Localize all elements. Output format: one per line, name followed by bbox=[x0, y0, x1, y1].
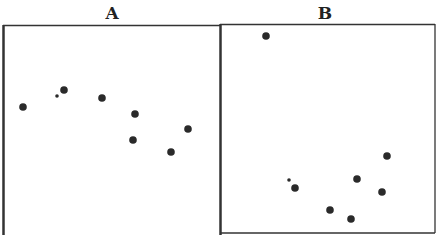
data-point bbox=[347, 215, 355, 223]
panel-b-points bbox=[262, 32, 391, 223]
data-point bbox=[326, 206, 334, 214]
data-point bbox=[131, 110, 139, 118]
panel-b-frame bbox=[220, 24, 435, 235]
data-point bbox=[353, 175, 361, 183]
data-point bbox=[262, 32, 270, 40]
data-point bbox=[129, 136, 137, 144]
data-point bbox=[378, 188, 386, 196]
data-point bbox=[19, 103, 27, 111]
data-point bbox=[60, 86, 68, 94]
data-point bbox=[184, 125, 192, 133]
data-point bbox=[167, 148, 175, 156]
scatter-plots bbox=[0, 0, 438, 235]
data-point bbox=[383, 152, 391, 160]
data-point bbox=[98, 94, 106, 102]
data-point bbox=[287, 178, 291, 182]
data-point bbox=[55, 94, 59, 98]
panel-a-points bbox=[19, 86, 192, 156]
data-point bbox=[291, 184, 299, 192]
